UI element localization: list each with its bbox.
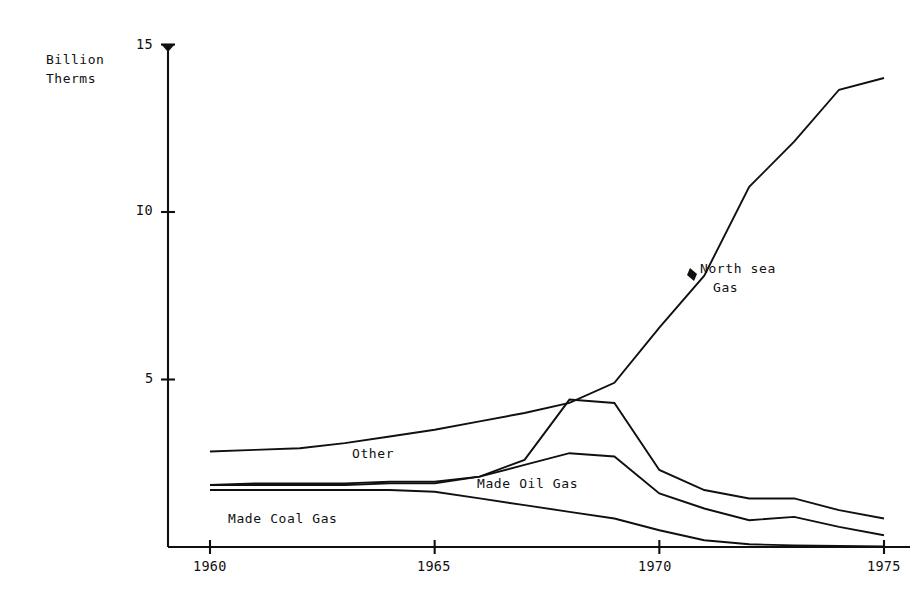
y-tick-label-10: I0 bbox=[136, 202, 153, 218]
series-line-north-sea-gas bbox=[210, 78, 884, 452]
gas-supply-line-chart: Billion Therms 15 I0 5 1960 1965 1970 19… bbox=[0, 0, 920, 598]
y-axis-title: Billion Therms bbox=[46, 50, 104, 88]
x-tick-label-1965: 1965 bbox=[417, 558, 451, 574]
series-label-north-sea-gas-line2: Gas bbox=[713, 278, 738, 297]
x-tick-label-1970: 1970 bbox=[638, 558, 672, 574]
y-tick-label-15: 15 bbox=[136, 36, 153, 52]
series-label-made-coal-gas: Made Coal Gas bbox=[228, 509, 338, 528]
y-tick-label-5: 5 bbox=[145, 370, 153, 386]
series-label-north-sea-gas-line1: North sea bbox=[700, 259, 776, 278]
series-label-other: Other bbox=[352, 444, 394, 463]
north-sea-gas-leader-mark bbox=[687, 268, 697, 281]
x-tick-label-1975: 1975 bbox=[867, 558, 901, 574]
series-label-made-oil-gas: Made Oil Gas bbox=[477, 474, 578, 493]
chart-canvas bbox=[0, 0, 920, 598]
x-tick-label-1960: 1960 bbox=[193, 558, 227, 574]
